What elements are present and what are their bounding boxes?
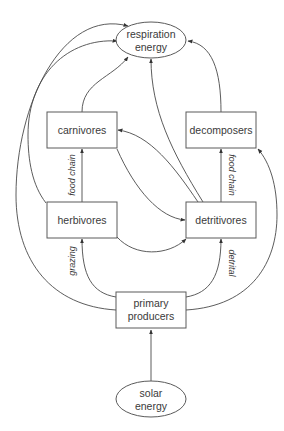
node-label: herbivores [57,214,106,226]
edge-carnivores-to-respiration [82,57,128,112]
energy-flow-diagram: food chain grazing food chain detrital r… [0,0,284,431]
node-solar-energy: solar energy [116,381,186,417]
node-herbivores: herbivores [47,202,117,238]
node-label: detritivores [195,214,246,226]
node-label-line1: respiration [126,28,175,40]
node-label-line2: energy [135,41,168,53]
edge-primary-to-herbivores-grazing [82,239,116,297]
node-primary-producers: primary producers [116,292,186,328]
edge-carnivores-to-detritivores [117,149,185,220]
label-food-chain-right: food chain [227,154,237,196]
node-label-line1: primary [133,297,169,309]
label-grazing: grazing [67,246,77,276]
label-food-chain-left: food chain [67,154,77,196]
node-carnivores: carnivores [47,112,117,148]
node-detritivores: detritivores [186,202,256,238]
edge-primary-to-detritivores-detrital [186,239,221,297]
node-label: decomposers [189,124,252,136]
label-detrital: detrital [227,249,237,277]
edge-decomposers-to-respiration [188,41,221,112]
node-label-line2: producers [128,310,175,322]
edge-herbivores-to-detritivores [117,237,186,252]
node-label-line1: solar [140,387,163,399]
node-respiration-energy: respiration energy [116,22,186,58]
node-decomposers: decomposers [186,112,256,148]
node-label-line2: energy [135,400,168,412]
node-label: carnivores [58,124,106,136]
